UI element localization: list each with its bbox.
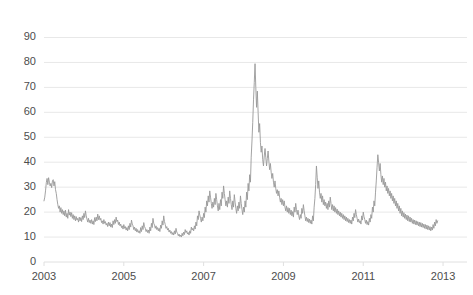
x-tick-label: 2003 (19, 271, 69, 282)
y-tick-label: 10 (8, 231, 36, 242)
y-tick-label: 80 (8, 56, 36, 67)
y-tick-label: 70 (8, 81, 36, 92)
x-tick-label: 2011 (338, 271, 388, 282)
x-tick-label: 2007 (179, 271, 229, 282)
y-tick-label: 60 (8, 106, 36, 117)
y-tick-label: 20 (8, 206, 36, 217)
x-tick-label: 2005 (99, 271, 149, 282)
data-series-group (44, 64, 438, 237)
chart-container: 0102030405060708090 20032005200720092011… (0, 0, 473, 295)
x-tick-label: 2009 (258, 271, 308, 282)
y-tick-label: 50 (8, 131, 36, 142)
line-chart-plot (0, 0, 473, 295)
x-axis-ticks (44, 262, 443, 266)
y-tick-label: 30 (8, 181, 36, 192)
y-tick-label: 0 (8, 256, 36, 267)
y-tick-label: 40 (8, 156, 36, 167)
x-tick-label: 2013 (418, 271, 468, 282)
series-line (44, 64, 438, 237)
y-tick-label: 90 (8, 31, 36, 42)
